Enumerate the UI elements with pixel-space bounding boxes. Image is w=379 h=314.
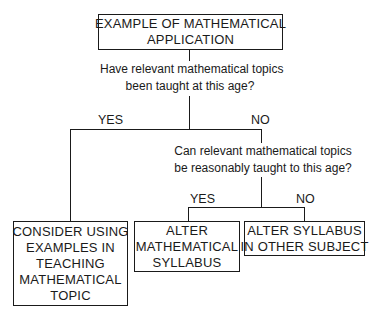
question-1-text: Have relevant mathematical topics been t… [100, 61, 280, 95]
connector-line [188, 207, 189, 221]
question-1-line: Have relevant mathematical topics [100, 61, 280, 78]
connector-line [70, 129, 71, 221]
branch-line-1 [70, 129, 262, 130]
question-2-line: be reasonably taught to this age? [168, 160, 358, 177]
outcome-line: ALTER [136, 223, 238, 239]
connector-line [261, 177, 262, 208]
connector-line [189, 50, 190, 61]
outcome-line: SYLLABUS [136, 255, 238, 271]
outcome-line: TEACHING [12, 256, 128, 272]
question-1-yes-label: YES [98, 113, 123, 127]
outcome-line: ALTER SYLLABUS [240, 223, 368, 239]
outcome-line: CONSIDER USING [12, 224, 128, 240]
outcome-line: EXAMPLES IN [12, 240, 128, 256]
connector-line [189, 96, 190, 129]
outcome-consider-examples-box: CONSIDER USING EXAMPLES IN TEACHING MATH… [13, 221, 128, 306]
question-2-text: Can relevant mathematical topics be reas… [168, 143, 358, 177]
question-1-line: been taught at this age? [100, 78, 280, 95]
branch-line-2 [188, 207, 304, 208]
outcome-line: MATHEMATICAL [12, 272, 128, 288]
root-node-line: EXAMPLE OF MATHEMATICAL [95, 16, 286, 32]
root-node-line: APPLICATION [95, 32, 286, 48]
outcome-line: IN OTHER SUBJECT [240, 239, 368, 255]
question-2-line: Can relevant mathematical topics [168, 143, 358, 160]
outcome-alter-other-syllabus-box: ALTER SYLLABUS IN OTHER SUBJECT [244, 221, 365, 256]
question-2-no-label: NO [296, 192, 315, 206]
outcome-line: TOPIC [12, 288, 128, 304]
question-2-yes-label: YES [190, 192, 215, 206]
question-1-no-label: NO [251, 113, 270, 127]
outcome-alter-math-syllabus-box: ALTER MATHEMATICAL SYLLABUS [134, 221, 240, 272]
root-node-box: EXAMPLE OF MATHEMATICAL APPLICATION [98, 14, 283, 50]
connector-line [261, 129, 262, 143]
connector-line [304, 207, 305, 221]
outcome-line: MATHEMATICAL [136, 239, 238, 255]
